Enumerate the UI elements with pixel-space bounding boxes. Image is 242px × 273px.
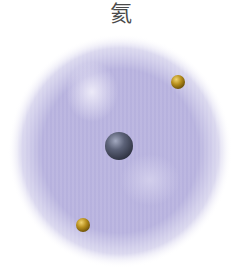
electron-2 — [76, 218, 90, 232]
nucleus — [105, 132, 133, 160]
cloud-highlight-secondary — [120, 154, 180, 206]
cloud-highlight — [66, 62, 118, 122]
electron-1 — [171, 75, 185, 89]
helium-atom-diagram — [0, 0, 242, 273]
